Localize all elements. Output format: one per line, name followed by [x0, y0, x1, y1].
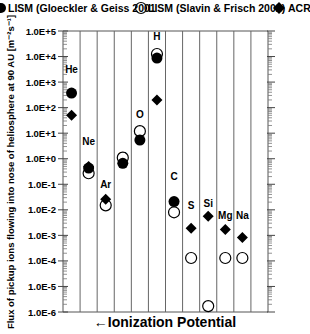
y-tick-label: 1.0E+0: [26, 153, 56, 164]
element-label-o: O: [136, 109, 144, 120]
element-label-ne: Ne: [82, 136, 95, 147]
plot-area: 1.0E+51.0E+41.0E+31.0E+21.0E+11.0E+01.0E…: [0, 0, 310, 334]
y-tick-label: 1.0E-2: [28, 204, 56, 215]
filled-circle-marker: [169, 196, 180, 207]
diamond-marker: [220, 224, 231, 235]
y-tick-label: 1.0E+3: [26, 77, 56, 88]
y-tick-label: 1.0E-4: [28, 255, 57, 266]
y-axis-label: Flux of pickup ions flowing into nose of…: [5, 15, 16, 329]
element-label-he: He: [65, 64, 78, 75]
filled-circle-marker: [134, 135, 145, 146]
element-label-ar: Ar: [100, 179, 111, 190]
filled-circle-marker: [117, 158, 128, 169]
element-label-c: C: [170, 171, 177, 182]
x-axis-label: ←Ionization Potential: [94, 314, 236, 330]
y-tick-label: 1.0E-3: [28, 230, 56, 241]
diamond-marker: [66, 110, 77, 121]
element-label-mg: Mg: [218, 210, 232, 221]
y-tick-label: 1.0E+5: [26, 26, 57, 37]
open-circle-marker: [169, 207, 180, 218]
y-tick-label: 1.0E-6: [28, 307, 56, 318]
diamond-marker: [186, 223, 197, 234]
open-circle-marker: [203, 301, 214, 312]
open-circle-marker: [220, 252, 231, 263]
diamond-marker: [151, 94, 162, 105]
filled-circle-marker: [151, 53, 162, 64]
filled-circle-marker: [66, 88, 77, 99]
element-label-na: Na: [236, 210, 249, 221]
y-tick-label: 1.0E+4: [26, 51, 57, 62]
y-tick-label: 1.0E-5: [28, 281, 57, 292]
element-label-si: Si: [203, 198, 213, 209]
diamond-marker: [237, 232, 248, 243]
open-circle-marker: [186, 252, 197, 263]
y-tick-label: 1.0E-1: [28, 179, 57, 190]
element-label-h: H: [153, 31, 160, 42]
y-tick-label: 1.0E+2: [26, 102, 56, 113]
y-tick-label: 1.0E+1: [26, 128, 57, 139]
open-circle-marker: [237, 252, 248, 263]
diamond-marker: [203, 211, 214, 222]
element-label-s: S: [188, 200, 195, 211]
